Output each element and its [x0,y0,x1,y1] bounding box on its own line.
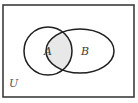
venn-diagram-canvas [0,0,138,103]
venn-diagram: A B U [0,0,138,103]
universe-label: U [9,78,18,89]
set-a-label: A [44,46,52,57]
set-b-label: B [81,46,89,57]
